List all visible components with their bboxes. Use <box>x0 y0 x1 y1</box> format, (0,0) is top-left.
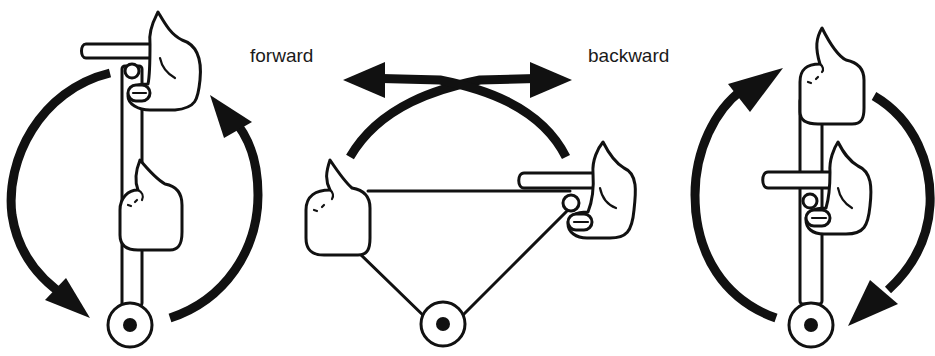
pivot-hub <box>436 317 450 331</box>
fist-left <box>306 160 370 255</box>
diagram-canvas: forward backward <box>0 0 935 356</box>
fist-top <box>800 28 864 124</box>
left-figure <box>11 12 258 347</box>
pointing-hand-top <box>82 12 201 110</box>
linkage-right <box>458 210 568 320</box>
pivot-hub <box>123 318 137 332</box>
rotation-arrow-left-down <box>11 73 110 318</box>
forward-backward-arrows <box>343 62 572 157</box>
rotation-arrow-left-up <box>695 68 783 318</box>
backward-label: backward <box>588 46 669 65</box>
middle-figure <box>306 62 635 346</box>
forward-label: forward <box>250 46 313 65</box>
pivot-hub <box>804 318 818 332</box>
right-figure <box>695 28 930 347</box>
linkage-left <box>358 252 428 320</box>
